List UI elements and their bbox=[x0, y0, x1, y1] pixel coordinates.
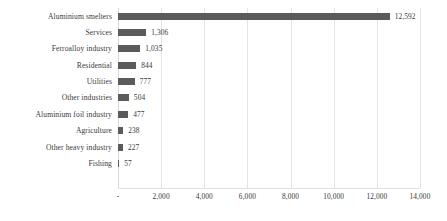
chart-row: Services1,306 bbox=[0, 24, 447, 40]
bar[interactable] bbox=[118, 62, 136, 69]
category-label: Aluminium foil industry bbox=[0, 110, 112, 119]
bar[interactable] bbox=[118, 94, 129, 101]
bar-wrapper: 504 bbox=[118, 90, 420, 106]
category-label: Aluminium smelters bbox=[0, 12, 112, 21]
bar-wrapper: 477 bbox=[118, 106, 420, 122]
category-label: Residential bbox=[0, 61, 112, 70]
bar-wrapper: 1,035 bbox=[118, 41, 420, 57]
bar-wrapper: 57 bbox=[118, 155, 420, 171]
x-axis-tick-label: 10,000 bbox=[323, 192, 344, 201]
bar-value-label: 504 bbox=[134, 93, 145, 102]
category-label: Fishing bbox=[0, 159, 112, 168]
x-axis-tick-label: - bbox=[117, 192, 120, 201]
bar-chart: Aluminium smelters12,592Services1,306Fer… bbox=[0, 0, 447, 221]
chart-row: Other heavy industry227 bbox=[0, 139, 447, 155]
x-axis-tick-label: 4,000 bbox=[196, 192, 213, 201]
category-label: Services bbox=[0, 28, 112, 37]
bar-value-label: 777 bbox=[140, 77, 151, 86]
bar-value-label: 844 bbox=[141, 61, 152, 70]
bar-value-label: 1,306 bbox=[151, 28, 168, 37]
chart-row: Residential844 bbox=[0, 57, 447, 73]
chart-row: Other industries504 bbox=[0, 90, 447, 106]
bar[interactable] bbox=[118, 111, 128, 118]
bar[interactable] bbox=[118, 13, 390, 20]
bar[interactable] bbox=[118, 144, 123, 151]
bar-value-label: 12,592 bbox=[395, 12, 416, 21]
chart-row: Fishing57 bbox=[0, 155, 447, 171]
category-label: Other heavy industry bbox=[0, 143, 112, 152]
chart-row: Agriculture238 bbox=[0, 123, 447, 139]
x-axis-tick-label: 2,000 bbox=[153, 192, 170, 201]
bar-value-label: 238 bbox=[128, 126, 139, 135]
chart-rows: Aluminium smelters12,592Services1,306Fer… bbox=[0, 8, 447, 188]
category-label: Utilities bbox=[0, 77, 112, 86]
chart-row: Ferroalloy industry1,035 bbox=[0, 41, 447, 57]
bar-wrapper: 844 bbox=[118, 57, 420, 73]
chart-row: Aluminium smelters12,592 bbox=[0, 8, 447, 24]
bar-value-label: 57 bbox=[124, 159, 132, 168]
bar[interactable] bbox=[118, 29, 146, 36]
x-axis: -2,0004,0006,0008,00010,00012,00014,000 bbox=[118, 188, 420, 208]
category-label: Ferroalloy industry bbox=[0, 44, 112, 53]
x-axis-tick-label: 6,000 bbox=[239, 192, 256, 201]
bar-wrapper: 1,306 bbox=[118, 24, 420, 40]
bar[interactable] bbox=[118, 78, 135, 85]
bar-value-label: 477 bbox=[133, 110, 144, 119]
bar-value-label: 1,035 bbox=[145, 44, 162, 53]
bar-value-label: 227 bbox=[128, 143, 139, 152]
bar-wrapper: 238 bbox=[118, 123, 420, 139]
x-axis-tick-label: 12,000 bbox=[366, 192, 387, 201]
x-axis-line bbox=[118, 188, 420, 189]
category-label: Agriculture bbox=[0, 126, 112, 135]
bar-wrapper: 12,592 bbox=[118, 8, 420, 24]
chart-row: Aluminium foil industry477 bbox=[0, 106, 447, 122]
bar[interactable] bbox=[118, 160, 119, 167]
category-label: Other industries bbox=[0, 93, 112, 102]
chart-row: Utilities777 bbox=[0, 73, 447, 89]
x-axis-tick-label: 14,000 bbox=[410, 192, 431, 201]
bar[interactable] bbox=[118, 45, 140, 52]
bar-wrapper: 227 bbox=[118, 139, 420, 155]
bar-wrapper: 777 bbox=[118, 73, 420, 89]
bar[interactable] bbox=[118, 127, 123, 134]
x-axis-tick-label: 8,000 bbox=[282, 192, 299, 201]
